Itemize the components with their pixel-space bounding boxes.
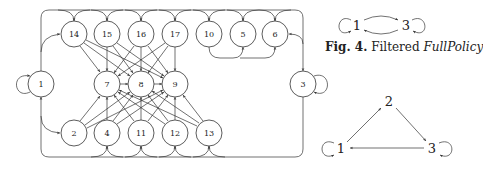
- figure-caption: Fig. 4. Filtered FullPolicy: [325, 40, 483, 54]
- caption-text: Filtered: [371, 40, 419, 54]
- graph-node-6: 6: [262, 21, 288, 47]
- graph-node-7: 7: [94, 71, 120, 97]
- graph-node-16: 16: [128, 21, 154, 47]
- graph-node-14: 14: [61, 21, 87, 47]
- caption-emphasis: FullPolicy: [423, 40, 483, 54]
- small-b-node-3: 3: [428, 141, 436, 156]
- graph-node-1: 1: [28, 71, 54, 97]
- graph-node-15: 15: [94, 21, 120, 47]
- small-graph-a: 1 3: [339, 16, 425, 34]
- node-label: 7: [104, 80, 109, 89]
- small-b-node-1: 1: [337, 141, 345, 156]
- graph-node-10: 10: [196, 21, 222, 47]
- graph-node-9: 9: [162, 71, 188, 97]
- edges-top-to-middle: [80, 40, 175, 78]
- node-label: 11: [136, 129, 146, 138]
- graph-node-11: 11: [128, 120, 154, 146]
- node-label: 14: [69, 30, 79, 39]
- node-label: 10: [204, 30, 214, 39]
- node-label: 16: [136, 30, 146, 39]
- node-label: 3: [300, 80, 305, 89]
- graph-node-8: 8: [128, 71, 154, 97]
- main-graph-nodes: 1141516171056789324111213: [28, 21, 316, 146]
- node-label: 6: [272, 30, 277, 39]
- node-label: 2: [71, 129, 76, 138]
- node-label: 1: [38, 80, 43, 89]
- node-label: 4: [104, 129, 109, 138]
- graph-node-4: 4: [94, 120, 120, 146]
- node-label: 9: [172, 80, 177, 89]
- node-label: 12: [170, 129, 180, 138]
- graph-node-3: 3: [290, 71, 316, 97]
- node-label: 17: [170, 30, 180, 39]
- caption-label: Fig. 4.: [325, 40, 367, 54]
- small-a-node-1: 1: [353, 18, 361, 33]
- node-label: 13: [204, 129, 214, 138]
- graph-node-2: 2: [61, 120, 87, 146]
- small-graph-b: 2 1 3: [322, 94, 452, 157]
- node-label: 5: [240, 30, 245, 39]
- small-b-node-2: 2: [385, 94, 393, 109]
- graph-node-17: 17: [162, 21, 188, 47]
- graph-node-13: 13: [196, 120, 222, 146]
- graph-node-12: 12: [162, 120, 188, 146]
- node-label: 8: [138, 80, 143, 89]
- small-a-node-3: 3: [402, 18, 410, 33]
- node-label: 15: [102, 30, 112, 39]
- graph-node-5: 5: [230, 21, 256, 47]
